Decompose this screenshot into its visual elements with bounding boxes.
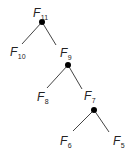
node-dot-f7 — [91, 107, 97, 113]
node-label-f9: F9 — [60, 46, 72, 61]
node-label-f11: F11 — [33, 6, 48, 21]
node-label-f8: F8 — [37, 90, 49, 105]
node-label-f5: F5 — [113, 134, 125, 149]
edge-f11-f10 — [22, 22, 42, 44]
edge-f9-f7 — [68, 65, 82, 89]
tree-node-labels: F11F10F9F8F7F6F5 — [10, 6, 125, 149]
edge-f9-f8 — [47, 65, 68, 88]
node-label-f7: F7 — [84, 89, 96, 104]
edge-f11-f9 — [42, 22, 56, 45]
edge-f7-f5 — [94, 110, 109, 132]
tree-edges — [22, 22, 109, 132]
fibonacci-recursion-tree: F11F10F9F8F7F6F5 — [0, 0, 131, 154]
node-dot-f9 — [65, 62, 71, 68]
node-label-f6: F6 — [60, 134, 72, 149]
edge-f7-f6 — [73, 110, 94, 131]
node-label-f10: F10 — [10, 45, 26, 60]
